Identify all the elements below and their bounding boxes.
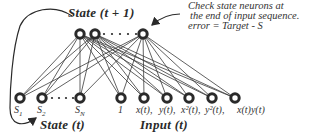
connection-line bbox=[95, 34, 144, 98]
neuron-node-s2 bbox=[38, 94, 46, 102]
connection-line bbox=[42, 34, 80, 98]
state-next-label: State (t + 1) bbox=[68, 5, 135, 21]
connection-lines bbox=[20, 34, 235, 98]
node-label-sn: SN bbox=[75, 104, 85, 118]
neuron-node-tN bbox=[139, 30, 147, 38]
neuron-node-t2 bbox=[91, 30, 99, 38]
neuron-node-xy bbox=[231, 94, 239, 102]
neuron-node-s1 bbox=[16, 94, 24, 102]
bottom-ellipsis-dots bbox=[51, 97, 74, 99]
connection-line bbox=[143, 34, 144, 98]
neuron-node-x2 bbox=[185, 94, 193, 102]
connection-line bbox=[80, 34, 212, 98]
node-label-s1: S1 bbox=[14, 104, 23, 118]
node-label-y2: y²(t), bbox=[205, 104, 224, 115]
neuron-node-t1 bbox=[76, 30, 84, 38]
top-ellipsis-dots bbox=[103, 33, 137, 35]
neuron-node-y bbox=[163, 94, 171, 102]
connection-line bbox=[143, 34, 189, 98]
node-label-x: x(t), bbox=[136, 104, 152, 115]
connection-line bbox=[95, 34, 189, 98]
connection-line bbox=[95, 34, 235, 98]
neuron-node-x bbox=[140, 94, 148, 102]
neuron-node-bias bbox=[117, 94, 125, 102]
connection-line bbox=[95, 34, 121, 98]
state-current-label: State (t) bbox=[40, 117, 85, 133]
node-label-y: y(t), bbox=[159, 104, 175, 115]
annotation-text: Check state neurons at the end of input … bbox=[188, 1, 299, 31]
annotation-line-3: error = Target - S bbox=[188, 21, 299, 31]
node-label-s2: S2 bbox=[37, 104, 46, 118]
node-label-xy: x(t)y(t) bbox=[237, 104, 265, 115]
node-label-bias: 1 bbox=[118, 104, 123, 115]
neuron-nodes bbox=[16, 30, 239, 102]
annotation-pointer-arrow bbox=[152, 14, 180, 25]
input-current-label: Input (t) bbox=[140, 117, 188, 133]
neuron-node-y2 bbox=[208, 94, 216, 102]
node-label-x2: x²(t), bbox=[181, 104, 200, 115]
neuron-node-sN bbox=[76, 94, 84, 102]
